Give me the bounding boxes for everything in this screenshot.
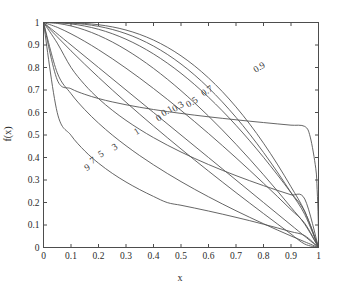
figure-container: 0.90.70.50.30.1013579 00.10.20.30.40.50.… xyxy=(0,0,346,287)
x-tick-label: 0.8 xyxy=(258,251,270,261)
y-tick-label: 0.7 xyxy=(28,85,40,95)
y-tick-label: 0.3 xyxy=(28,175,40,185)
x-tick-label: 0.5 xyxy=(175,251,187,261)
y-tick-label: 0.5 xyxy=(28,130,40,140)
x-tick-label: 0 xyxy=(41,251,46,261)
x-tick-label: 0.2 xyxy=(93,251,105,261)
y-tick-label: 0.8 xyxy=(28,63,40,73)
y-tick-label: 0.9 xyxy=(28,40,40,50)
y-axis-title: f(x) xyxy=(2,127,14,142)
y-tick-label: 0.4 xyxy=(28,153,40,163)
x-tick-label: 0.9 xyxy=(285,251,297,261)
x-tick-label: 0.7 xyxy=(230,251,242,261)
x-tick-label: 0.3 xyxy=(120,251,132,261)
y-tick-label: 0.6 xyxy=(28,108,40,118)
y-tick-label: 0.1 xyxy=(28,220,40,230)
x-tick-label: 0.6 xyxy=(203,251,215,261)
x-tick-label: 0.1 xyxy=(65,251,77,261)
y-tick-label: 0 xyxy=(35,243,40,253)
x-tick-label: 0.4 xyxy=(148,251,160,261)
x-axis-title: x xyxy=(178,272,183,283)
x-tick-label: 1 xyxy=(316,251,321,261)
line-chart: 0.90.70.50.30.1013579 00.10.20.30.40.50.… xyxy=(0,0,346,287)
chart-background xyxy=(0,0,346,287)
y-tick-label: 0.2 xyxy=(28,198,40,208)
y-tick-label: 1 xyxy=(35,18,40,28)
